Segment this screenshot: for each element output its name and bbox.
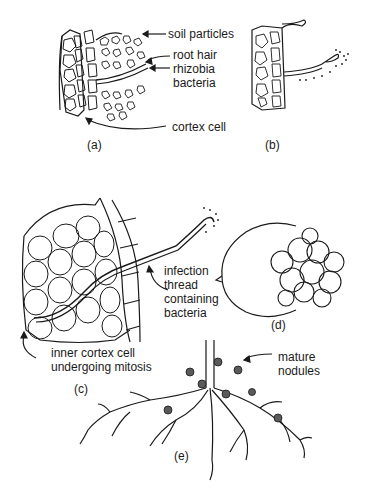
label-containing: containing: [164, 292, 219, 306]
panel-a-drawing: [59, 30, 170, 129]
label-infection: infection: [164, 264, 209, 278]
label-thread: thread: [164, 278, 198, 292]
label-bacteria-c: bacteria: [164, 306, 207, 320]
caption-e: (e): [174, 449, 189, 463]
label-inner-cortex-cell: inner cortex cell: [51, 346, 135, 360]
label-mature: mature: [278, 350, 315, 364]
caption-c: (c): [74, 382, 88, 396]
label-soil-particles: soil particles: [168, 27, 234, 41]
label-undergoing-mitosis: undergoing mitosis: [51, 360, 152, 374]
label-nodules: nodules: [278, 364, 320, 378]
label-rhizobia: rhizobia: [173, 62, 215, 76]
caption-d: (d): [271, 318, 286, 332]
label-cortex-cell: cortex cell: [172, 120, 226, 134]
label-root-hair: root hair: [173, 48, 217, 62]
caption-b: (b): [265, 138, 280, 152]
label-bacteria: bacteria: [173, 76, 216, 90]
panel-b-drawing: [252, 20, 349, 110]
caption-a: (a): [87, 138, 102, 152]
panel-d-drawing: [216, 223, 344, 316]
